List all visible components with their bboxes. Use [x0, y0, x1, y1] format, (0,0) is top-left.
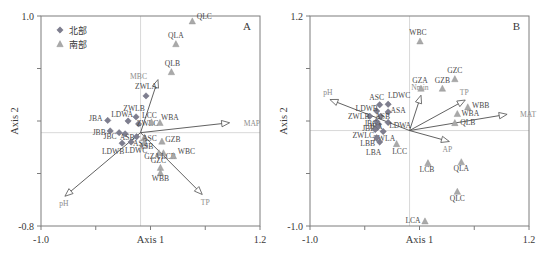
arrowhead-MAT — [499, 112, 507, 118]
point-label-QLA: QLA — [168, 31, 184, 40]
env-label-pH: pH — [323, 88, 333, 97]
point-label-GZC: GZC — [151, 156, 166, 165]
point-marker-LCA — [422, 218, 428, 224]
env-label-AP: AP — [443, 145, 453, 154]
point-label-GZC: GZC — [447, 66, 462, 75]
point-label-QLA: QLA — [454, 164, 470, 173]
point-marker-QLA — [173, 41, 179, 47]
panel-b: -1.0Axis 11.2-1.01.2Axis 2BMATTPAPpHNmin… — [269, 0, 538, 264]
x-tick-label: 1.2 — [254, 234, 267, 245]
env-label-TP: TP — [460, 88, 469, 97]
point-label-GZB: GZB — [435, 76, 450, 85]
x-tick-label: -1.0 — [33, 234, 49, 245]
point-label-LBB: LBB — [360, 139, 375, 148]
panel-letter: B — [513, 20, 520, 32]
x-axis-title: Axis 1 — [137, 234, 165, 245]
point-marker-QLC — [189, 18, 195, 24]
arrowhead-Nmin — [415, 95, 421, 104]
panel-b-plot-area: -1.0Axis 11.2-1.01.2Axis 2BMATTPAPpHNmin… — [278, 11, 536, 246]
y-tick-label: -1.0 — [287, 221, 303, 232]
point-label-ASC: ASC — [369, 93, 384, 102]
arrowhead-pH — [330, 99, 339, 105]
point-marker-WBA — [454, 110, 460, 116]
arrow-shaft-AP — [410, 131, 442, 140]
y-tick-label: -0.8 — [18, 221, 34, 232]
point-label-QLB: QLB — [460, 118, 475, 127]
point-label-WBC: WBC — [178, 147, 195, 156]
point-label-QLC: QLC — [450, 194, 465, 203]
env-label-MAP: MAP — [244, 119, 260, 128]
point-label-LCB: LCB — [420, 165, 435, 174]
arrowhead-AP — [441, 136, 450, 142]
point-label-LDWC: LDWC — [388, 91, 410, 100]
point-marker-GZB — [439, 85, 445, 91]
panel-b-svg: -1.0Axis 11.2-1.01.2Axis 2BMATTPAPpHNmin… — [269, 0, 538, 264]
env-label-pH: pH — [59, 199, 69, 208]
point-label-ASB: ASB — [139, 142, 154, 151]
panel-a: -1.0Axis 11.2-0.81.0Axis 2AMAPTPpHMBCZWL… — [0, 0, 269, 264]
legend-marker-north — [57, 27, 63, 33]
point-label-LDWB: LDWB — [102, 147, 124, 156]
legend-marker-south — [57, 41, 63, 47]
legend-label-south: 南部 — [69, 39, 87, 50]
arrowhead-pH — [65, 189, 73, 197]
point-label-ZWLC: ZWLC — [137, 119, 159, 128]
panel-letter: A — [243, 20, 251, 32]
y-axis-title: Axis 2 — [278, 107, 289, 135]
point-marker-WBC — [417, 38, 423, 44]
point-label-JBA: JBA — [89, 114, 103, 123]
arrowhead-MAP — [221, 120, 229, 126]
x-tick-label: 1.2 — [523, 234, 536, 245]
x-tick-label: -1.0 — [302, 234, 318, 245]
point-marker-QLB — [168, 69, 174, 75]
y-axis-title: Axis 2 — [9, 107, 20, 135]
x-axis-title: Axis 1 — [406, 234, 434, 245]
plot-frame — [310, 16, 529, 226]
point-marker-GZB — [159, 138, 165, 144]
arrowhead-TP — [457, 100, 466, 107]
point-label-LDWA: LDWA — [111, 110, 133, 119]
point-label-LCA: LCA — [405, 216, 421, 225]
point-label-GZA: GZA — [412, 76, 428, 85]
point-label-ZWLA: ZWLA — [135, 82, 157, 91]
point-label-JBC: JBC — [104, 132, 117, 141]
env-label-MBC: MBC — [130, 72, 147, 81]
point-label-LBA: LBA — [366, 148, 382, 157]
ordination-biplot-figure: -1.0Axis 11.2-0.81.0Axis 2AMAPTPpHMBCZWL… — [0, 0, 538, 264]
point-label-GZB: GZB — [165, 135, 180, 144]
y-tick-label: 1.2 — [291, 11, 304, 22]
point-label-WBB: WBB — [152, 174, 169, 183]
panel-a-svg: -1.0Axis 11.2-0.81.0Axis 2AMAPTPpHMBCZWL… — [0, 0, 269, 264]
point-label-LCC: LCC — [392, 147, 407, 156]
point-marker-GZC — [452, 76, 458, 82]
point-marker-ZWLA — [143, 93, 149, 99]
env-label-TP: TP — [201, 198, 210, 207]
point-label-LCC: LCC — [142, 111, 157, 120]
y-tick-label: 1.0 — [22, 11, 35, 22]
point-label-QLC: QLC — [197, 12, 212, 21]
panel-a-plot-area: -1.0Axis 11.2-0.81.0Axis 2AMAPTPpHMBCZWL… — [9, 11, 266, 246]
point-label-WBC: WBC — [409, 28, 426, 37]
point-label-ASA: ASA — [391, 106, 407, 115]
point-marker-JBA — [104, 117, 110, 123]
env-label-MAT: MAT — [520, 110, 536, 119]
point-label-LDWA: LDWA — [389, 121, 411, 130]
point-label-WBA: WBA — [461, 109, 479, 118]
legend-label-north: 北部 — [69, 25, 87, 36]
point-label-WBA: WBA — [161, 113, 179, 122]
point-label-QLB: QLB — [165, 59, 180, 68]
